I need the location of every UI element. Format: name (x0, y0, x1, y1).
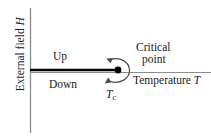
x-axis-label-symbol: T (194, 74, 200, 86)
critical-temperature-label: Tc (106, 88, 116, 103)
critical-point-annotation-line1: Critical (136, 41, 171, 53)
diagram-canvas (0, 0, 211, 139)
x-axis-label: Temperature T (133, 74, 200, 86)
critical-temperature-subscript: c (112, 93, 116, 102)
y-axis-label-text: External field (14, 25, 26, 91)
phase-diagram-figure: External field H Up Down Critical point … (0, 0, 211, 139)
y-axis-label-symbol: H (14, 17, 26, 25)
x-axis-label-text: Temperature (133, 74, 194, 86)
arc-arrowhead-lower-icon (105, 77, 112, 83)
y-axis-label: External field H (14, 0, 26, 109)
critical-point-annotation-line2: point (142, 53, 171, 65)
region-label-up: Up (53, 50, 67, 62)
critical-point-annotation: Critical point (136, 41, 171, 66)
arc-arrowhead-upper-icon (106, 58, 113, 63)
region-label-down: Down (49, 78, 77, 90)
critical-point-marker (115, 67, 122, 74)
